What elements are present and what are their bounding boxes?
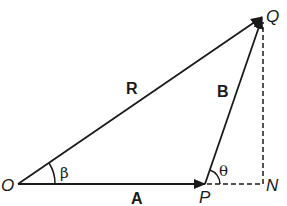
angle-label-beta: β [60, 164, 69, 182]
point-label-n: N [266, 176, 279, 195]
point-label-o: O [1, 176, 14, 195]
angle-label-theta: θ [219, 162, 228, 180]
vector-label-b: B [217, 83, 229, 100]
vector-diagram: O P N Q A R B β θ [0, 0, 287, 206]
point-label-q: Q [266, 7, 279, 26]
vector-label-a: A [131, 190, 143, 206]
vector-b-arrow [205, 18, 262, 184]
vector-r-arrow [18, 17, 262, 184]
angle-arc-beta [49, 163, 55, 184]
point-label-p: P [199, 188, 211, 206]
vector-label-r: R [126, 80, 138, 97]
